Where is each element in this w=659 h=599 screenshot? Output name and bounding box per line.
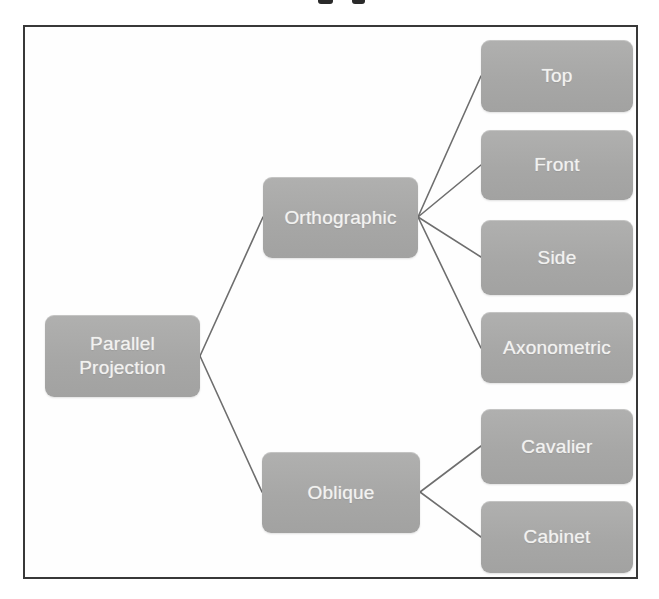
node-axonometric: Axonometric: [481, 312, 633, 383]
node-parallel-projection-label: Parallel Projection: [45, 332, 200, 380]
node-cabinet: Cabinet: [481, 501, 633, 573]
node-parallel-projection: Parallel Projection: [45, 315, 200, 397]
node-oblique-label: Oblique: [300, 481, 383, 505]
node-axonometric-label: Axonometric: [495, 336, 619, 360]
node-side-label: Side: [530, 246, 585, 270]
cropped-caption-artifact: [318, 0, 333, 4]
diagram-canvas: Parallel Projection Orthographic Oblique…: [0, 0, 659, 599]
node-cavalier: Cavalier: [481, 409, 633, 484]
node-top-label: Top: [533, 64, 580, 88]
node-side: Side: [481, 220, 633, 295]
node-cavalier-label: Cavalier: [513, 435, 600, 459]
node-oblique: Oblique: [262, 452, 420, 533]
node-top: Top: [481, 40, 633, 112]
node-orthographic-label: Orthographic: [276, 206, 404, 230]
node-cabinet-label: Cabinet: [516, 525, 599, 549]
node-front: Front: [481, 130, 633, 200]
node-orthographic: Orthographic: [263, 177, 418, 258]
node-front-label: Front: [526, 153, 587, 177]
cropped-caption-artifact: [352, 0, 365, 4]
